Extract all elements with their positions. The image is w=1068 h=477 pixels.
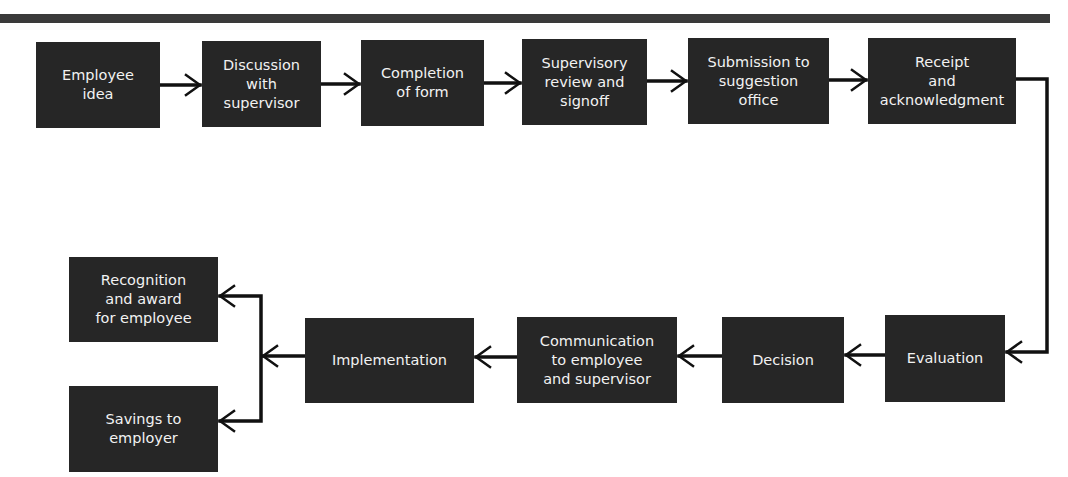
- node-evaluation: Evaluation: [885, 315, 1005, 402]
- node-submission-to-suggestion-office: Submission to suggestion office: [688, 38, 829, 124]
- node-employee-idea: Employee idea: [36, 42, 160, 128]
- node-completion-of-form: Completion of form: [361, 40, 484, 126]
- node-decision: Decision: [722, 317, 844, 403]
- node-implementation: Implementation: [305, 318, 474, 403]
- node-supervisory-review: Supervisory review and signoff: [522, 39, 647, 125]
- node-recognition-and-award: Recognition and award for employee: [69, 257, 218, 342]
- node-label: Recognition and award for employee: [95, 271, 191, 328]
- node-label: Receipt and acknowledgment: [880, 53, 1004, 110]
- node-label: Decision: [752, 351, 814, 370]
- node-label: Supervisory review and signoff: [541, 54, 627, 111]
- node-savings-to-employer: Savings to employer: [69, 386, 218, 472]
- node-label: Employee idea: [62, 66, 134, 104]
- node-discussion-with-supervisor: Discussion with supervisor: [202, 41, 321, 127]
- node-label: Communication to employee and supervisor: [540, 332, 654, 389]
- node-label: Completion of form: [381, 64, 464, 102]
- node-receipt-and-acknowledgment: Receipt and acknowledgment: [868, 38, 1016, 124]
- node-label: Implementation: [332, 351, 447, 370]
- node-label: Submission to suggestion office: [707, 53, 809, 110]
- node-communication: Communication to employee and supervisor: [517, 317, 677, 403]
- node-label: Discussion with supervisor: [223, 56, 300, 113]
- node-label: Evaluation: [907, 349, 984, 368]
- node-label: Savings to employer: [106, 410, 182, 448]
